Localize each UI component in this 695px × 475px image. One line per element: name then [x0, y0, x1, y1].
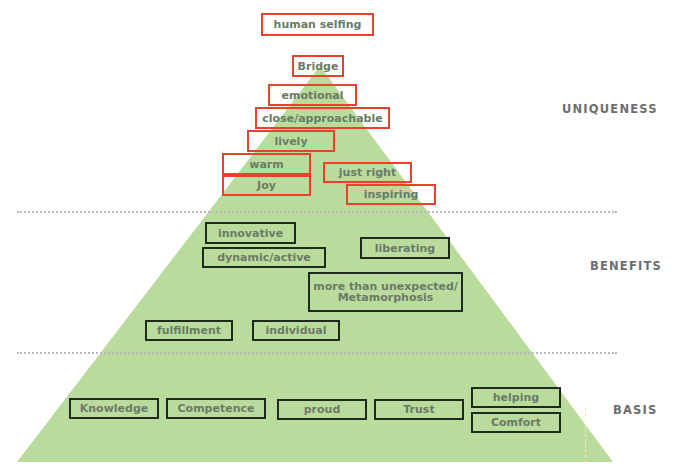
box-trust: Trust	[374, 399, 464, 420]
box-human-selfing: human selfing	[261, 13, 374, 36]
box-close-approachable: close/approachable	[255, 107, 390, 129]
box-emotional: emotional	[268, 84, 357, 106]
divider-uniqueness-benefits	[17, 211, 617, 213]
box-knowledge: Knowledge	[69, 398, 159, 419]
divider-benefits-basis	[17, 352, 617, 354]
box-dynamic-active: dynamic/active	[202, 247, 326, 268]
box-individual: individual	[252, 320, 340, 341]
box-bridge: Bridge	[292, 55, 344, 77]
box-joy: Joy	[222, 175, 311, 196]
box-competence: Competence	[166, 398, 266, 419]
faint-guide-line	[585, 408, 586, 463]
box-innovative: innovative	[205, 222, 296, 244]
box-inspiring: inspiring	[346, 184, 436, 205]
section-label-benefits: BENEFITS	[590, 259, 662, 273]
box-metamorphosis: more than unexpected/ Metamorphosis	[308, 272, 463, 312]
box-comfort: Comfort	[471, 412, 561, 433]
box-liberating: liberating	[360, 237, 450, 259]
section-label-uniqueness: UNIQUENESS	[562, 102, 658, 116]
box-helping: helping	[471, 387, 561, 408]
box-warm: warm	[222, 153, 311, 175]
box-lively: lively	[247, 130, 335, 152]
section-label-basis: BASIS	[613, 403, 658, 417]
box-fulfillment: fulfillment	[145, 320, 233, 341]
box-just-right: just right	[323, 162, 412, 183]
box-proud: proud	[277, 399, 367, 420]
